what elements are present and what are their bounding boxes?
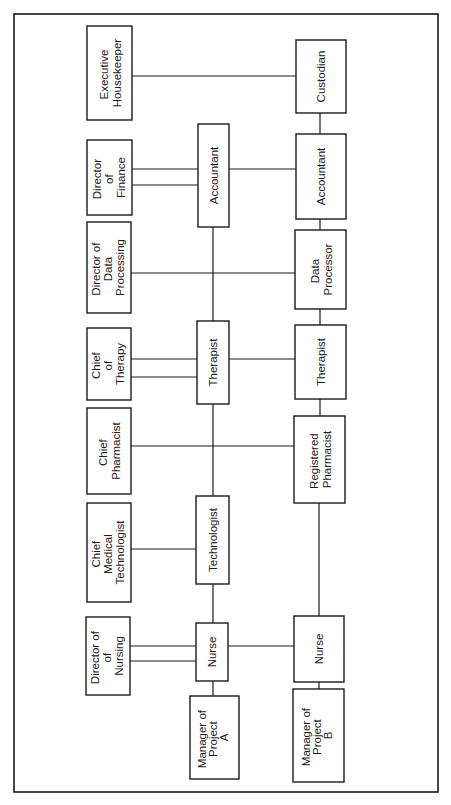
node-manager-project-b: Manager of Project B [293, 689, 344, 782]
label-line: Therapist [315, 337, 327, 386]
node-executive-housekeeper: Executive Housekeeper [87, 26, 132, 120]
label-line: Data [309, 258, 321, 283]
svg-text:Therapist: Therapist [315, 337, 327, 386]
node-director-of-nursing: Director of of Nursing [86, 617, 130, 695]
org-chart-diagram: Executive Housekeeper Director of Financ… [0, 0, 451, 805]
label-line: of [101, 652, 113, 662]
label-line: Pharmacist [110, 421, 122, 479]
node-accountant-a: Accountant [198, 124, 229, 227]
svg-text:Therapist: Therapist [207, 338, 219, 387]
label-line: Therapist [207, 338, 219, 387]
label-line: Director of [89, 630, 101, 684]
label-line: A [218, 733, 230, 741]
node-accountant-b: Accountant [296, 134, 346, 219]
label-line: Therapy [114, 343, 126, 385]
node-registered-pharmacist-b: Registered Pharmacist [294, 416, 345, 503]
node-manager-project-a: Manager of Project A [190, 696, 239, 779]
label-line: of [102, 360, 114, 370]
label-line: Director [91, 159, 103, 199]
node-chief-of-therapy: Chief of Therapy [87, 328, 131, 400]
node-chief-pharmacist: Chief Pharmacist [87, 408, 131, 494]
label-line: Accountant [315, 147, 327, 205]
svg-text:Registered Pharmacist: Registered Pharmacist [308, 430, 333, 489]
label-line: Finance [115, 157, 127, 198]
label-line: of [103, 174, 115, 184]
node-data-processor-b: Data Processor [295, 230, 346, 309]
svg-text:Accountant: Accountant [208, 146, 220, 204]
label-line: Accountant [208, 146, 220, 204]
node-therapist-a: Therapist [197, 321, 229, 404]
svg-text:Executive Housekeeper: Executive Housekeeper [98, 39, 123, 108]
node-chief-medical-technologist: Chief Medical Technologist [87, 503, 131, 602]
node-nurse-a: Nurse [196, 623, 228, 681]
label-line: Technologist [207, 507, 219, 572]
label-line: Housekeeper [111, 39, 123, 108]
svg-text:Nurse: Nurse [206, 637, 218, 668]
svg-text:Technologist: Technologist [207, 507, 219, 572]
svg-text:Nurse: Nurse [313, 634, 325, 665]
svg-text:Accountant: Accountant [315, 147, 327, 205]
label-line: Director of [90, 242, 102, 296]
label-line: Custodian [315, 51, 327, 103]
label-line: B [322, 731, 334, 739]
label-line: Executive [98, 50, 110, 100]
node-nurse-b: Nurse [294, 616, 344, 682]
node-technologist-a: Technologist [196, 496, 229, 584]
label-line: Chief [90, 351, 102, 379]
node-custodian-b: Custodian [296, 40, 346, 113]
label-line: Nurse [206, 637, 218, 668]
label-line: Technologist [114, 520, 126, 585]
node-director-of-finance: Director of Finance [87, 140, 132, 215]
label-line: Processing [114, 239, 126, 296]
label-line: Registered [308, 433, 320, 489]
node-director-of-data-processing: Director of Data Processing [87, 222, 131, 313]
label-line: Chief [90, 540, 102, 568]
label-line: Nursing [113, 636, 125, 676]
label-line: Data [102, 256, 114, 281]
node-therapist-b: Therapist [295, 325, 346, 399]
label-line: Medical [102, 534, 114, 574]
label-line: Pharmacist [321, 430, 333, 488]
svg-text:Custodian: Custodian [315, 51, 327, 103]
label-line: Nurse [313, 634, 325, 665]
label-line: Chief [97, 438, 109, 466]
label-line: Processor [322, 243, 334, 295]
